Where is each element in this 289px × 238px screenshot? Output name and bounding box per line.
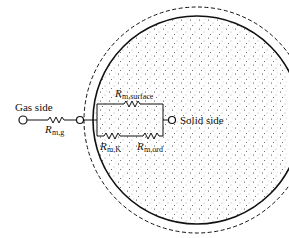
r-m-surface-symbol: R: [114, 87, 122, 99]
r-m-k-subscript: m,K: [107, 145, 121, 154]
resistance-diagram: Gas side Solid side R m,g R m,surface R …: [0, 0, 289, 238]
r-m-k-symbol: R: [99, 140, 107, 152]
r-m-g-subscript: m,g: [52, 128, 64, 137]
r-m-surface-subscript: m,surface: [122, 92, 154, 101]
solid-side-label: Solid side: [180, 114, 224, 126]
surface-node: [77, 117, 84, 124]
gas-side-label: Gas side: [15, 101, 53, 113]
gas-side-node: [19, 116, 27, 124]
solid-side-node: [169, 117, 176, 124]
r-m-ord-symbol: R: [136, 140, 144, 152]
r-m-ord-subscript: m,ord: [144, 145, 163, 154]
r-m-g-symbol: R: [44, 123, 52, 135]
